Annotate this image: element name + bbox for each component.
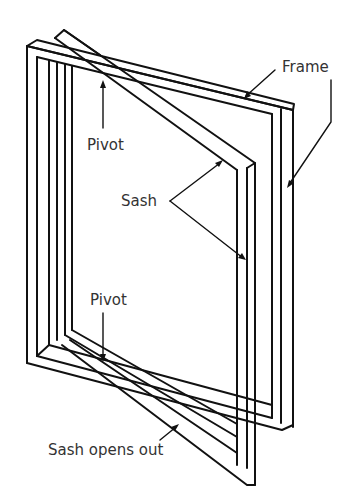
label-pivot-top: Pivot <box>87 136 124 154</box>
pivot-window-diagram: Frame Pivot Sash Pivot Sash opens out <box>0 0 355 504</box>
label-sash: Sash <box>121 192 157 210</box>
label-pivot-bottom: Pivot <box>90 291 127 309</box>
label-sash-opens-out: Sash opens out <box>48 441 164 459</box>
frame <box>27 40 294 430</box>
sash <box>55 30 255 485</box>
label-frame: Frame <box>282 58 329 76</box>
